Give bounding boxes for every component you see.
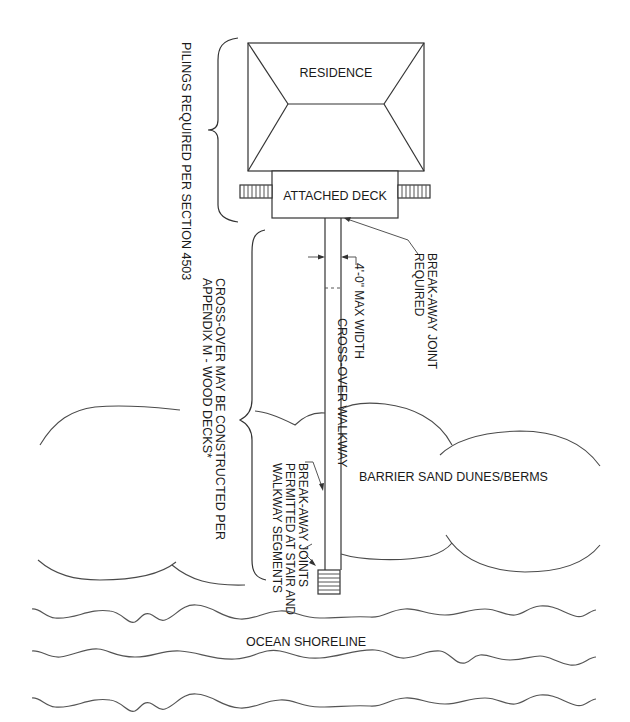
- breakaway-joint-line1: BREAK-AWAY JOINT: [425, 253, 439, 370]
- deck-stair-left: [240, 185, 272, 198]
- crossover-bracket: [240, 230, 266, 580]
- ocean-shoreline: OCEAN SHORELINE: [32, 605, 596, 712]
- breakaway-joints-line2: PERMITTED AT STAIR AND: [283, 463, 297, 615]
- crossover-note-line1: CROSS-OVER MAY BE CONSTRUCTED PER: [213, 278, 227, 540]
- dunes-label: BARRIER SAND DUNES/BERMS: [359, 470, 548, 484]
- crossover-walkway: CROSS-OVER WALKWAY: [325, 218, 349, 570]
- ocean-label: OCEAN SHORELINE: [246, 635, 366, 649]
- attached-deck-label: ATTACHED DECK: [283, 189, 387, 203]
- walkway-label: CROSS-OVER WALKWAY: [335, 318, 349, 468]
- max-width-label: 4'-0" MAX WIDTH: [352, 263, 366, 359]
- sand-dunes: BARRIER SAND DUNES/BERMS: [38, 403, 600, 585]
- residence-label: RESIDENCE: [300, 66, 373, 80]
- pilings-bracket: [208, 38, 238, 222]
- beach-stair: [318, 570, 340, 594]
- breakaway-joints-line1: BREAK-AWAY JOINTS: [296, 463, 310, 587]
- breakaway-joint-line2: REQUIRED: [412, 253, 426, 317]
- attached-deck: ATTACHED DECK: [272, 171, 398, 218]
- pilings-note: PILINGS REQUIRED PER SECTION 4503: [179, 42, 193, 280]
- dune-crossover-diagram: RESIDENCE ATTACHED DECK PILINGS REQUIRED…: [0, 0, 630, 722]
- breakaway-joints-line3: WALKWAY SEGMENTS: [270, 463, 284, 593]
- crossover-note-line2: APPENDIX M - WOOD DECKS*: [200, 278, 214, 458]
- residence: RESIDENCE: [248, 43, 424, 171]
- deck-stair-right: [398, 185, 430, 198]
- crossover-note: CROSS-OVER MAY BE CONSTRUCTED PER APPEND…: [200, 278, 227, 540]
- breakaway-joints-note: BREAK-AWAY JOINTS PERMITTED AT STAIR AND…: [270, 462, 324, 615]
